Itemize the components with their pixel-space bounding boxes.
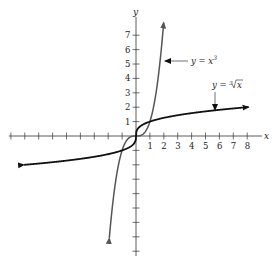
x-tick-label: 3 (175, 141, 180, 151)
y-axis-label: y (132, 7, 139, 17)
y-tick-label: 6 (125, 45, 130, 55)
x-tick-label: 2 (161, 141, 166, 151)
x-tick-label: 8 (245, 141, 250, 151)
y-tick-label: 3 (125, 88, 130, 98)
x-axis-label: x (264, 131, 269, 141)
x-tick-label: 5 (203, 141, 208, 151)
x-tick-label: 7 (231, 141, 236, 151)
label-x-cubed: y = x3 (190, 54, 217, 66)
y-tick-label: 1 (125, 117, 130, 127)
label-cube-root-arg: x (237, 80, 242, 90)
label-cube-root: y = 3 (211, 80, 233, 90)
y-tick-label: 2 (125, 102, 130, 112)
x-tick-label: 4 (189, 141, 194, 151)
y-tick-label: 5 (125, 59, 130, 69)
y-tick-label: 4 (125, 73, 130, 83)
y-tick-label: 7 (125, 30, 130, 40)
function-graph: 12345678 1234567 x y y = x3 y = 3 x (0, 0, 273, 262)
x-tick-label: 1 (147, 141, 152, 151)
x-tick-label: 6 (217, 141, 222, 151)
x-axis-ticks: 12345678 (11, 133, 250, 152)
